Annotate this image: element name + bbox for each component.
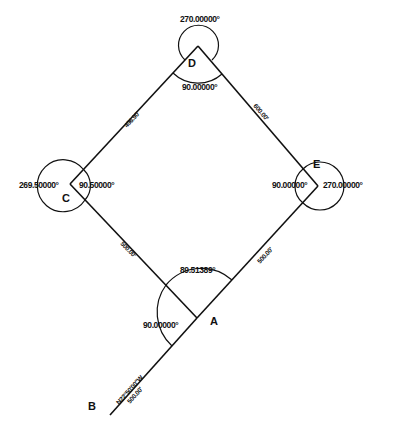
point-label-e: E <box>313 158 320 170</box>
distance-a-e: 500.00' <box>256 245 275 264</box>
angle-a-interior: 89.51389° <box>180 265 216 275</box>
angle-c-interior: 90.50000° <box>79 180 115 190</box>
angle-c-exterior: 269.50000° <box>19 180 60 190</box>
angle-a-to-b: 90.00000° <box>143 320 179 330</box>
point-label-d: D <box>188 57 196 69</box>
traverse-diagram: D C E A B 270.00000° 90.00000° 269.50000… <box>0 0 398 432</box>
side-d-e <box>198 46 318 186</box>
angle-d-interior: 90.00000° <box>182 82 218 92</box>
angle-e-interior: 90.00000° <box>272 180 308 190</box>
distance-c-d: 496.90' <box>123 109 142 128</box>
distance-c-a: 500.00' <box>119 240 138 259</box>
arc-d-exterior <box>179 25 219 60</box>
point-label-c: C <box>62 192 70 204</box>
angle-e-exterior: 270.00000° <box>323 180 364 190</box>
side-a-e <box>197 186 318 318</box>
point-label-b: B <box>88 400 96 412</box>
arc-a-to-b <box>157 285 172 346</box>
angle-d-exterior: 270.00000° <box>180 14 221 24</box>
point-label-a: A <box>210 315 218 327</box>
